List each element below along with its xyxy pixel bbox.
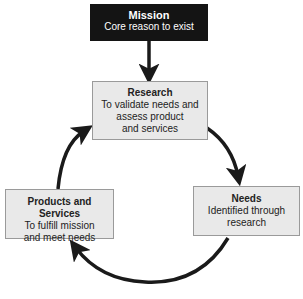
mission-desc: Core reason to exist: [90, 21, 208, 33]
needs-desc: Identified through research: [194, 205, 299, 229]
research-box: Research To validate needs and assess pr…: [92, 81, 208, 140]
needs-box: Needs Identified through research: [193, 186, 300, 236]
arrow-products-to-research: [58, 131, 84, 189]
mission-box: Mission Core reason to exist: [90, 4, 208, 41]
products-title: Products and Services: [6, 196, 113, 220]
mission-title: Mission: [90, 9, 208, 21]
products-desc: To fulfill mission and meet needs: [6, 220, 113, 244]
products-box: Products and Services To fulfill mission…: [5, 189, 114, 239]
arrow-research-to-needs: [207, 128, 238, 176]
needs-title: Needs: [194, 193, 299, 205]
research-title: Research: [93, 87, 207, 99]
cropped-caption: [18, 292, 288, 299]
arrow-needs-to-products: [76, 238, 228, 282]
research-desc: To validate needs and assess product and…: [93, 99, 207, 135]
flow-arrows: [0, 0, 303, 299]
